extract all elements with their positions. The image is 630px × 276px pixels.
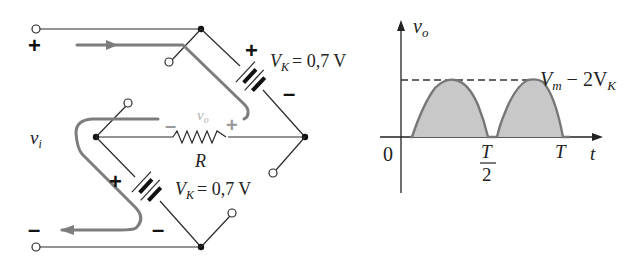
top-diode-label: VK= 0,7 V [270, 51, 346, 74]
arrow-left-icon [60, 225, 74, 235]
top-diode-lead-a [201, 29, 240, 66]
bottom-diode-lead-b [160, 201, 201, 247]
half-period-numerator: T [481, 141, 493, 162]
output-waveform-chart: 0 T 2 T t vo Vm − 2VK [380, 15, 617, 193]
bottom-switch-stub [201, 216, 230, 247]
output-voltage-label: vo [197, 107, 209, 125]
output-plus-sign: + [226, 114, 238, 136]
top-diode-plus: + [245, 38, 258, 63]
left-open-terminal [124, 99, 132, 107]
input-terminal-bottom [32, 243, 40, 251]
right-open-terminal [269, 169, 277, 177]
origin-label: 0 [383, 143, 393, 165]
input-terminal-top [32, 25, 40, 33]
bottom-diode-plus: + [109, 169, 122, 194]
left-switch-stub [96, 106, 126, 137]
bottom-diode-label: VK= 0,7 V [175, 179, 251, 202]
arrow-right-icon [106, 40, 118, 50]
output-minus-sign: – [165, 114, 176, 136]
input-plus-sign: + [28, 33, 41, 58]
top-diode-symbol [236, 62, 268, 95]
peak-annotation: Vm − 2VK [540, 68, 617, 93]
resistor-R [173, 131, 226, 143]
circuit-diagram: + – + – + – – + vi vo R VK= 0,7 V VK= 0,… [0, 0, 630, 276]
top-diode-minus: – [283, 81, 295, 106]
bottom-diode-symbol [132, 172, 164, 205]
current-path-top [77, 45, 248, 119]
x-axis-label: t [590, 143, 596, 164]
y-axis-arrow-icon [397, 20, 405, 31]
half-period-denominator: 2 [482, 164, 492, 185]
resistor-label: R [194, 151, 206, 171]
bottom-diode-minus: – [152, 217, 164, 242]
period-label: T [555, 141, 567, 162]
input-voltage-label: vi [30, 127, 42, 151]
top-open-terminal [165, 58, 173, 66]
bottom-open-terminal [228, 209, 236, 217]
x-axis-arrow-icon [592, 133, 603, 141]
y-axis-label: vo [413, 15, 429, 40]
input-minus-sign: – [28, 217, 40, 242]
right-switch-stub [276, 137, 305, 170]
